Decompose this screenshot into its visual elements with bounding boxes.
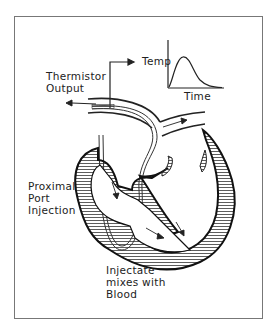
injectate-label: Injectate mixes with Blood <box>106 264 166 300</box>
outflow-arrow-icon <box>66 100 96 106</box>
thermistor-output-label: Thermistor Output <box>46 70 106 94</box>
label-line: Blood <box>106 288 166 300</box>
thermodilution-curve <box>168 40 224 88</box>
label-line: Output <box>46 82 106 94</box>
curve-ylabel: Temp <box>142 55 171 67</box>
label-line: Injection <box>28 204 76 216</box>
proximal-port-label: Proximal Port Injection <box>28 180 76 216</box>
label-line: Thermistor <box>46 70 106 82</box>
label-line: Injectate <box>106 264 166 276</box>
label-line: mixes with <box>106 276 166 288</box>
valve-flaps <box>162 150 206 176</box>
pulmonary-artery <box>88 98 205 136</box>
label-line: Port <box>28 192 76 204</box>
curve-xlabel: Time <box>184 90 211 102</box>
label-line: Proximal <box>28 180 76 192</box>
